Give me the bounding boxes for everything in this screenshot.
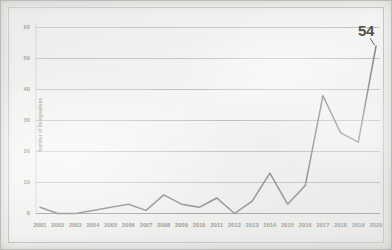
series-polyline bbox=[40, 46, 376, 213]
data-series-line bbox=[40, 46, 376, 213]
data-label-2020: 54 bbox=[358, 22, 374, 39]
chart-figure: Number of Designations 0102030405060 200… bbox=[0, 0, 392, 250]
axis-lines bbox=[36, 24, 380, 214]
chart-plot-area bbox=[0, 0, 392, 250]
callout-leader bbox=[370, 38, 375, 45]
callout-leader-line bbox=[370, 38, 375, 45]
gridlines bbox=[36, 28, 380, 183]
